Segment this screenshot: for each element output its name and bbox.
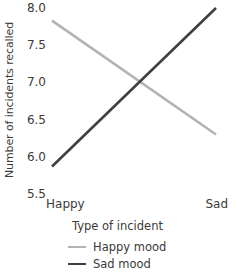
y-axis-tick-label: 6.0 (14, 151, 46, 163)
series-line-sad-mood (52, 8, 216, 166)
interaction-line-chart: Number of incidents recalled 8.0 7.5 7.0… (0, 0, 235, 274)
plot-svg (52, 8, 216, 194)
legend-color-swatch-sad-mood (68, 263, 86, 265)
y-axis-tick-label: 7.5 (14, 39, 46, 51)
x-axis-title: Type of incident (0, 219, 235, 233)
x-axis-tick-label-sad: Sad (205, 196, 228, 212)
y-axis-tick-label: 5.5 (14, 188, 46, 200)
legend-color-swatch-happy-mood (68, 246, 86, 248)
y-axis-tick-label: 7.0 (14, 76, 46, 88)
series-line-happy-mood (52, 21, 216, 135)
legend-item-happy-mood: Happy mood (0, 238, 235, 255)
x-axis-tick-labels: Happy Sad (46, 196, 228, 212)
y-axis-tick-label: 6.5 (14, 114, 46, 126)
legend-label-sad-mood: Sad mood (93, 257, 151, 271)
y-axis-tick-label: 8.0 (14, 2, 46, 14)
chart-legend: Happy mood Sad mood (0, 238, 235, 272)
x-axis-tick-label-happy: Happy (46, 196, 85, 212)
plot-area (52, 8, 216, 194)
legend-label-happy-mood: Happy mood (93, 240, 166, 254)
legend-item-sad-mood: Sad mood (0, 255, 235, 272)
